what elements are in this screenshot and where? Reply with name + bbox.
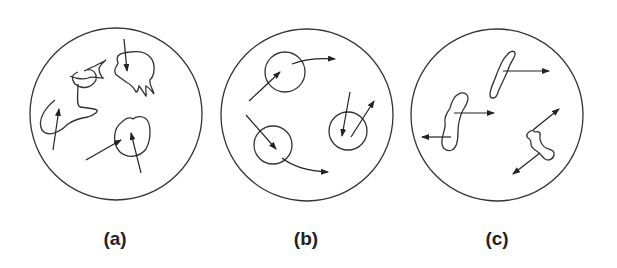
arrow-down-left <box>513 153 540 174</box>
arrow-into-teardrop <box>53 109 59 150</box>
arrow-out-circle-3 <box>351 101 374 137</box>
arrow-into-jagged <box>124 39 127 71</box>
panel-label-c: (c) <box>467 228 527 250</box>
particle-elongated-1 <box>490 51 515 98</box>
particle-circle-1 <box>265 52 305 92</box>
arrow-into-round-1 <box>86 140 121 160</box>
panel-b <box>221 29 393 201</box>
arrow-out-circle-2 <box>282 158 328 172</box>
arrow-into-round-2 <box>131 133 141 173</box>
panel-label-a: (a) <box>85 228 145 250</box>
boundary-circle-c <box>411 29 583 201</box>
boundary-circle-a <box>30 28 202 200</box>
arrow-up-right <box>533 109 559 130</box>
arrow-in-circle-2 <box>246 115 276 149</box>
particle-blob <box>527 131 554 160</box>
particle-jagged <box>115 52 154 96</box>
panel-a <box>30 28 202 200</box>
arrow-in-circle-3 <box>342 92 350 136</box>
panel-c <box>411 29 583 201</box>
particle-elongated-2 <box>442 93 468 151</box>
arrow-out-circle-1 <box>292 59 335 64</box>
particle-teardrop-outline <box>40 84 97 134</box>
panel-label-b: (b) <box>276 228 336 250</box>
particle-circle-3 <box>329 112 367 150</box>
particle-teardrop <box>70 60 106 87</box>
arrow-in-circle-1 <box>249 72 280 101</box>
